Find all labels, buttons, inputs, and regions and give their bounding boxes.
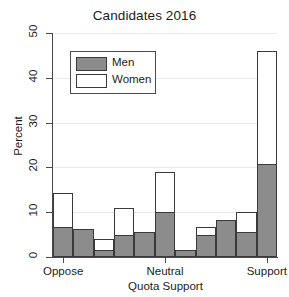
y-tick-mark: [46, 167, 52, 168]
bar: [94, 250, 114, 257]
y-tick-label: 30: [27, 110, 39, 132]
bar: [175, 250, 195, 257]
bar: [155, 212, 175, 257]
legend-label: Men: [112, 56, 134, 68]
bar: [257, 164, 277, 257]
y-tick-label: 10: [27, 199, 39, 221]
y-tick-label: 0: [27, 244, 39, 266]
bar: [53, 227, 73, 257]
gridline: [53, 123, 277, 124]
y-axis-title: Percent: [12, 96, 24, 176]
chart-title: Candidates 2016: [0, 8, 289, 23]
bar: [196, 235, 216, 257]
y-tick-label: 20: [27, 154, 39, 176]
y-tick-mark: [46, 123, 52, 124]
gridline: [53, 167, 277, 168]
gridline: [53, 33, 277, 34]
legend-swatch-men: [76, 57, 107, 71]
bar: [114, 235, 134, 257]
x-tick-label: Neutral: [125, 265, 205, 277]
x-axis-title: Quota Support: [53, 280, 278, 292]
x-tick-mark: [165, 258, 166, 263]
bar: [134, 232, 154, 257]
bar: [216, 220, 236, 257]
y-tick-mark: [46, 78, 52, 79]
legend-label: Women: [112, 73, 151, 85]
y-tick-mark: [46, 257, 52, 258]
legend: MenWomen: [70, 51, 156, 94]
y-tick-label: 50: [27, 20, 39, 42]
y-tick-mark: [46, 33, 52, 34]
x-tick-mark: [63, 258, 64, 263]
y-tick-mark: [46, 212, 52, 213]
x-tick-label: Support: [227, 265, 289, 277]
chart-figure: Candidates 2016 01020304050 OpposeNeutra…: [0, 0, 289, 297]
bar: [73, 229, 93, 257]
bar: [236, 232, 256, 257]
x-tick-mark: [267, 258, 268, 263]
legend-swatch-women: [76, 74, 107, 88]
y-tick-label: 40: [27, 65, 39, 87]
x-tick-label: Oppose: [23, 265, 103, 277]
